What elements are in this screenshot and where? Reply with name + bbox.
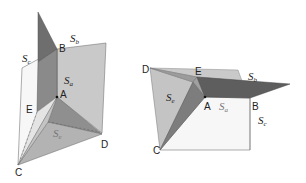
right-figure: D E Sb Se A Sa B Sc C	[142, 64, 290, 156]
label-sb-left: Sb	[70, 32, 80, 46]
left-figure: B Sb Sc Sa A E Se D C	[15, 12, 108, 178]
plane-sb-dark-right	[197, 77, 290, 98]
point-a-dot-left	[56, 96, 59, 99]
label-b-right: B	[252, 101, 259, 112]
label-e-left: E	[26, 104, 33, 115]
label-a-right: A	[204, 101, 211, 112]
label-sc-left: Sc	[22, 52, 32, 66]
label-b-left: B	[59, 43, 66, 54]
label-c-left: C	[15, 167, 22, 178]
label-c-right: C	[153, 145, 160, 156]
label-a-left: A	[60, 89, 67, 100]
diagram-canvas: B Sb Sc Sa A E Se D C D E Sb Se A Sa B	[0, 0, 306, 183]
label-e-right: E	[195, 66, 202, 77]
point-a-dot-right	[204, 96, 207, 99]
label-d-right: D	[142, 64, 149, 75]
label-sb-right: Sb	[248, 70, 258, 84]
label-d-left: D	[101, 139, 108, 150]
label-sc-right: Sc	[258, 114, 268, 128]
